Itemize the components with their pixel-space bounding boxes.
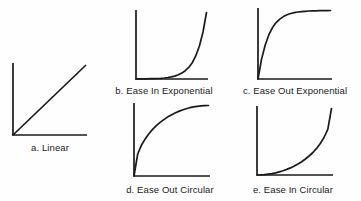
ease-out-exponential-caption: c. Ease Out Exponential	[243, 85, 347, 96]
linear-caption: a. Linear	[31, 142, 69, 153]
linear-easing-plot	[12, 63, 87, 136]
ease-in-exponential-caption: b. Ease In Exponential	[115, 85, 212, 96]
ease-in-exponential-plot	[135, 10, 208, 80]
ease-out-circular-caption: d. Ease Out Circular	[126, 184, 214, 195]
ease-in-circular-plot	[256, 106, 333, 176]
easing-curves-figure: a. Linear b. Ease In Exponential c. Ease…	[0, 0, 361, 201]
ease-out-circular-plot	[133, 103, 210, 177]
ease-out-exponential-plot	[257, 8, 332, 80]
ease-in-circular-caption: e. Ease In Circular	[253, 184, 333, 195]
